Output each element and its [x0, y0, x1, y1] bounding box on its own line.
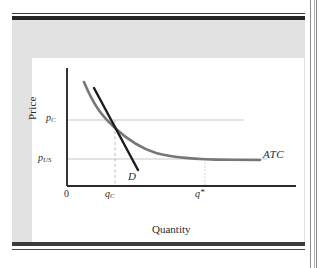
x-tick-qc-subscript: C: [110, 192, 115, 200]
origin-label: 0: [64, 189, 69, 199]
y-tick-pus-subscript: US: [43, 156, 52, 164]
page-edge-rule-middle: [314, 0, 315, 268]
y-tick-label-pus: pUS: [38, 153, 52, 164]
chart-panel: Price Quantity pC pUS 0 qC q* ATC D: [32, 58, 304, 246]
figure-page: Price Quantity pC pUS 0 qC q* ATC D: [0, 0, 328, 268]
x-axis-label: Quantity: [152, 224, 191, 235]
y-axis-label: Price: [27, 96, 38, 120]
figure-bottom-bar: [12, 242, 305, 246]
y-tick-label-pc: pC: [46, 113, 56, 124]
x-tick-label-qc: qC: [105, 189, 115, 200]
figure-mat: Price Quantity pC pUS 0 qC q* ATC D: [12, 20, 305, 242]
curve-demand: [94, 88, 138, 170]
figure-top-hairline: [12, 13, 305, 14]
curve-label-demand: D: [128, 171, 136, 182]
figure-block: Price Quantity pC pUS 0 qC q* ATC D: [12, 13, 305, 256]
x-tick-label-qstar: q*: [195, 188, 205, 199]
curve-label-atc: ATC: [263, 149, 284, 160]
page-edge-rule-right: [316, 0, 317, 268]
x-tick-qstar-superscript: *: [200, 187, 205, 197]
page-edge-rule-left: [310, 0, 311, 268]
figure-bottom-hairline: [12, 249, 305, 250]
y-tick-pc-subscript: C: [51, 116, 56, 124]
